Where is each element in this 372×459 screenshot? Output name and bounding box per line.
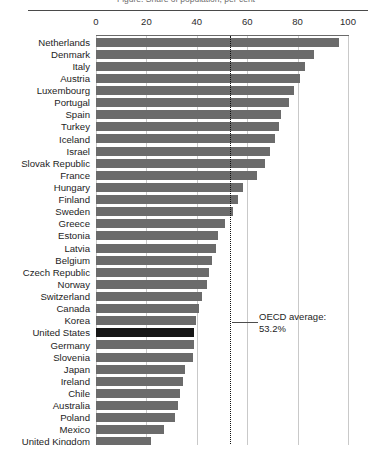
category-label-czech-republic: Czech Republic — [23, 267, 90, 278]
category-label-united-states: United States — [32, 327, 90, 338]
bar-row — [96, 181, 348, 193]
bar-finland — [96, 195, 238, 204]
category-label-slovak-republic: Slovak Republic — [21, 158, 90, 169]
bar-row — [96, 254, 348, 266]
cut-off-title-strip: Figure: Share of population, per cent — [0, 0, 372, 9]
annotation-line-2: 53.2% — [259, 323, 326, 335]
category-label-hungary: Hungary — [54, 182, 90, 193]
bar-row — [96, 387, 348, 399]
bar-row — [96, 218, 348, 230]
bar-korea — [96, 316, 196, 325]
category-label-denmark: Denmark — [51, 49, 90, 60]
category-label-canada: Canada — [56, 303, 90, 314]
bar-row — [96, 351, 348, 363]
category-label-norway: Norway — [57, 279, 90, 290]
bar-australia — [96, 401, 178, 410]
category-label-turkey: Turkey — [61, 121, 90, 132]
bar-spain — [96, 110, 281, 119]
bar-row — [96, 84, 348, 96]
bar-switzerland — [96, 292, 202, 301]
bar-row — [96, 266, 348, 278]
bar-czech-republic — [96, 268, 209, 277]
category-label-latvia: Latvia — [64, 243, 90, 254]
bar-row — [96, 36, 348, 48]
x-tick-20: 20 — [141, 16, 152, 27]
bar-row — [96, 242, 348, 254]
bar-iceland — [96, 134, 275, 143]
category-label-switzerland: Switzerland — [40, 291, 90, 302]
bar-germany — [96, 340, 194, 349]
bar-row — [96, 375, 348, 387]
bar-row — [96, 278, 348, 290]
bar-row — [96, 412, 348, 424]
page-title: Figure: Share of population, per cent — [0, 0, 372, 4]
bar-row — [96, 290, 348, 302]
bar-norway — [96, 280, 207, 289]
bar-row — [96, 157, 348, 169]
bar-chart: 020406080100 NetherlandsDenmarkItalyAust… — [0, 14, 372, 459]
category-label-france: France — [60, 170, 90, 181]
bar-row — [96, 363, 348, 375]
bar-row — [96, 339, 348, 351]
category-label-korea: Korea — [64, 315, 90, 326]
bar-poland — [96, 413, 175, 422]
category-label-slovenia: Slovenia — [53, 352, 90, 363]
x-tick-60: 60 — [242, 16, 253, 27]
bar-row — [96, 145, 348, 157]
category-label-germany: Germany — [51, 340, 90, 351]
bar-ireland — [96, 377, 183, 386]
annotation-leader-line — [232, 322, 258, 323]
y-axis-category-labels: NetherlandsDenmarkItalyAustriaLuxembourg… — [0, 36, 93, 448]
category-label-chile: Chile — [68, 388, 90, 399]
category-label-japan: Japan — [64, 364, 90, 375]
bar-row — [96, 230, 348, 242]
category-label-israel: Israel — [67, 146, 90, 157]
bar-row — [96, 206, 348, 218]
bar-portugal — [96, 98, 289, 107]
x-tick-0: 0 — [93, 16, 98, 27]
x-tick-40: 40 — [192, 16, 203, 27]
bar-slovenia — [96, 353, 193, 362]
bar-canada — [96, 304, 199, 313]
category-label-sweden: Sweden — [55, 206, 90, 217]
bar-italy — [96, 62, 305, 71]
gridline-100 — [348, 36, 349, 448]
bar-belgium — [96, 256, 212, 265]
plot-area — [96, 36, 348, 448]
bar-israel — [96, 147, 270, 156]
bar-row — [96, 97, 348, 109]
x-tick-80: 80 — [292, 16, 303, 27]
oecd-average-annotation: OECD average: 53.2% — [259, 311, 326, 334]
bar-row — [96, 60, 348, 72]
annotation-line-1: OECD average: — [259, 311, 326, 323]
category-label-portugal: Portugal — [54, 97, 90, 108]
category-label-poland: Poland — [60, 412, 90, 423]
category-label-mexico: Mexico — [60, 424, 90, 435]
bar-hungary — [96, 183, 243, 192]
bar-turkey — [96, 122, 279, 131]
oecd-average-line — [230, 36, 231, 448]
bar-row — [96, 400, 348, 412]
category-label-finland: Finland — [59, 194, 90, 205]
x-axis-tick-labels: 020406080100 — [0, 16, 372, 30]
bar-row — [96, 169, 348, 181]
x-tick-100: 100 — [340, 16, 356, 27]
bar-sweden — [96, 207, 233, 216]
category-label-netherlands: Netherlands — [38, 37, 90, 48]
category-label-estonia: Estonia — [58, 230, 90, 241]
category-label-iceland: Iceland — [59, 134, 90, 145]
bar-row — [96, 109, 348, 121]
bar-estonia — [96, 231, 218, 240]
category-label-luxembourg: Luxembourg — [37, 85, 90, 96]
category-label-spain: Spain — [65, 109, 90, 120]
bar-slovak-republic — [96, 159, 265, 168]
category-label-greece: Greece — [59, 218, 90, 229]
category-label-austria: Austria — [60, 73, 90, 84]
bar-row — [96, 424, 348, 436]
bar-luxembourg — [96, 86, 294, 95]
bottom-margin — [0, 445, 372, 459]
bar-row — [96, 133, 348, 145]
bar-row — [96, 72, 348, 84]
bar-row — [96, 48, 348, 60]
bar-chile — [96, 389, 180, 398]
